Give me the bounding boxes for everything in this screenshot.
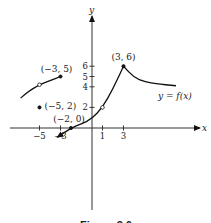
figure-caption: Figure 2.6 [80,219,132,223]
curve-right-branch [124,66,177,86]
graph-figure: x y −5−3132456 (−5, 2)(−3, 5)(−2, 0)(3, … [0,0,211,223]
open-point [101,106,105,110]
y-tick-label: 2 [83,102,88,112]
point-label: (−5, 2) [45,101,77,111]
closed-point [122,65,125,68]
curve-left-branch [21,77,61,99]
closed-point [69,126,72,129]
x-tick-label: 3 [121,131,126,141]
y-tick-label: 5 [83,72,88,82]
x-axis-label: x [202,123,207,133]
y-tick-label: 4 [83,82,88,92]
closed-point [59,75,62,78]
function-label: y = f(x) [157,91,192,101]
y-axis-label: y [88,5,95,15]
x-tick-label: −5 [33,131,46,141]
point-label: (3, 6) [111,52,135,62]
open-point [38,83,42,87]
closed-point [38,106,41,109]
point-label: (−2, 0) [53,114,85,124]
y-tick-label: 6 [83,61,88,71]
x-tick-label: 1 [100,131,105,141]
point-label: (−3, 5) [41,64,73,74]
